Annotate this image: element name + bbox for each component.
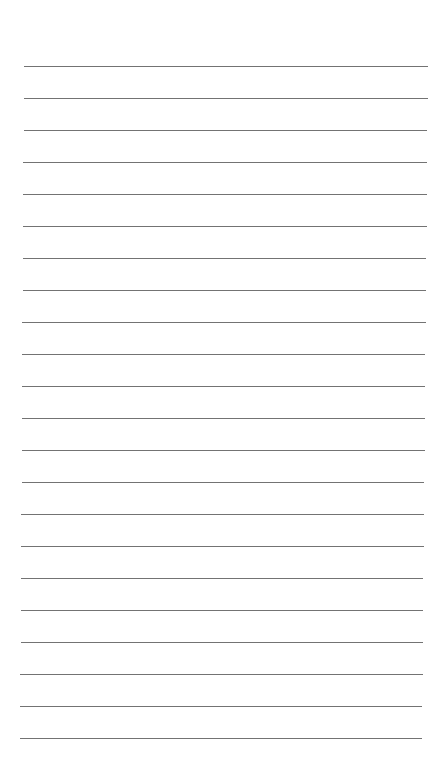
ruled-line: [20, 674, 422, 675]
ruled-line: [21, 578, 423, 579]
ruled-line: [24, 98, 428, 99]
ruled-line: [23, 290, 426, 291]
lined-paper-page: [0, 0, 447, 771]
ruled-line: [22, 322, 425, 323]
ruled-line: [22, 482, 425, 483]
ruled-line: [23, 226, 427, 227]
ruled-line: [21, 546, 424, 547]
ruled-line: [20, 738, 422, 739]
ruled-line: [23, 258, 426, 259]
ruled-line: [21, 514, 424, 515]
ruled-line: [23, 162, 427, 163]
ruled-line: [22, 450, 425, 451]
ruled-line: [21, 642, 423, 643]
ruled-line: [20, 706, 422, 707]
ruled-line: [22, 386, 425, 387]
ruled-line: [22, 418, 425, 419]
ruled-line: [21, 610, 423, 611]
ruled-line: [23, 194, 427, 195]
ruled-line: [24, 66, 428, 67]
ruled-line: [24, 130, 428, 131]
ruled-line: [22, 354, 425, 355]
